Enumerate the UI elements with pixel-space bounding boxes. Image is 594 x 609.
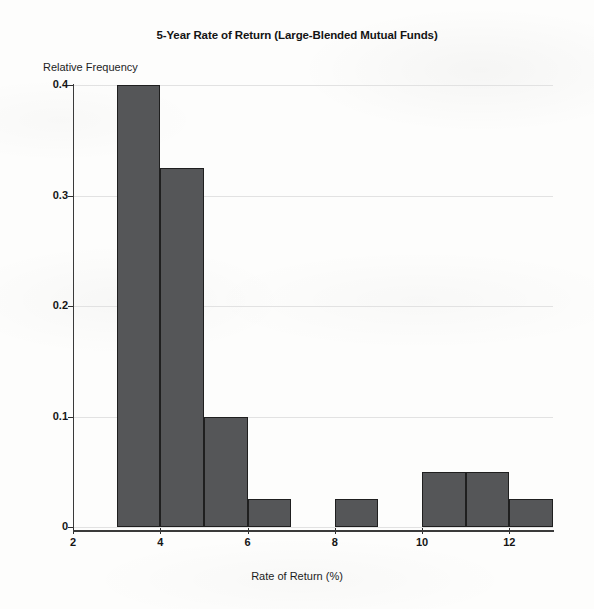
- y-axis-line: [73, 84, 74, 528]
- histogram-plot: Relative Frequency Rate of Return (%) 0.…: [0, 0, 594, 609]
- x-axis-tick-label: 6: [228, 536, 268, 548]
- x-axis-tick-label: 10: [402, 536, 442, 548]
- histogram-bar: [160, 168, 204, 527]
- histogram-bar: [204, 417, 248, 528]
- histogram-bar: [117, 85, 161, 527]
- y-axis-title: Relative Frequency: [43, 61, 138, 73]
- histogram-bar: [509, 499, 553, 527]
- y-axis-tick-label: 0.3: [30, 189, 68, 201]
- y-axis-tick-label: 0.4: [30, 78, 68, 90]
- x-axis-tick-label: 12: [489, 536, 529, 548]
- y-axis-tick-label: 0.2: [30, 299, 68, 311]
- x-axis-tick-label: 4: [140, 536, 180, 548]
- gridline: [73, 527, 553, 528]
- x-axis-line: [73, 530, 554, 532]
- x-axis-tick-label: 8: [315, 536, 355, 548]
- histogram-bar: [466, 472, 510, 527]
- y-axis-tick-label: 0.1: [30, 410, 68, 422]
- x-axis-title: Rate of Return (%): [0, 570, 594, 582]
- histogram-bar: [335, 499, 379, 527]
- x-axis-tick-label: 2: [53, 536, 93, 548]
- histogram-bar: [422, 472, 466, 527]
- y-axis-tick-label: 0: [30, 520, 68, 532]
- histogram-bar: [248, 499, 292, 527]
